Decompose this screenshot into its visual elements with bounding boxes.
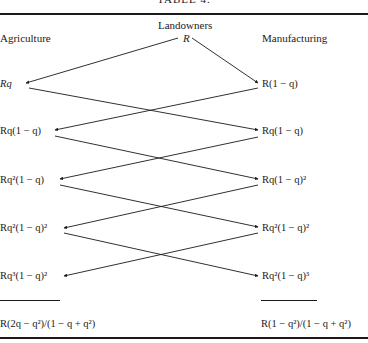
- bottom-rule: [0, 337, 368, 339]
- subtotal-rule-left: [0, 300, 60, 301]
- subtotal-rule-right: [261, 300, 317, 301]
- flow-arrows: [0, 0, 368, 343]
- total-manufacturing: R(1 − q²)/(1 − q + q²): [261, 319, 351, 330]
- total-agriculture: R(2q − q²)/(1 − q + q²): [0, 319, 95, 330]
